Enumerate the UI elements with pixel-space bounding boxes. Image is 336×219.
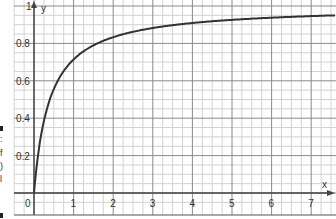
- major-grid: [14, 0, 336, 215]
- svg-text:0.4: 0.4: [16, 113, 30, 124]
- y-axis-label: y: [41, 3, 46, 14]
- edge-mark: [0, 126, 3, 131]
- x-axis-label: x: [322, 179, 327, 190]
- tick-labels: 012345670.20.40.60.81: [16, 1, 314, 209]
- svg-text:4: 4: [189, 198, 195, 209]
- svg-text:1: 1: [71, 198, 77, 209]
- svg-text:5: 5: [229, 198, 235, 209]
- edge-fragment: f: [0, 148, 3, 158]
- svg-text:0.6: 0.6: [16, 76, 30, 87]
- edge-fragment: :: [0, 134, 3, 144]
- svg-text:0.8: 0.8: [16, 38, 30, 49]
- svg-text:0.2: 0.2: [16, 151, 30, 162]
- axes: [14, 1, 335, 215]
- line-chart: 012345670.20.40.60.81 x y: [0, 0, 336, 219]
- edge-fragment: l: [0, 174, 2, 184]
- data-curve: [34, 15, 335, 193]
- svg-text:1: 1: [26, 1, 32, 12]
- minor-grid: [14, 0, 336, 215]
- svg-text:7: 7: [308, 198, 314, 209]
- svg-text:3: 3: [150, 198, 156, 209]
- edge-fragment: ): [0, 161, 3, 171]
- svg-text:2: 2: [110, 198, 116, 209]
- svg-text:0: 0: [25, 198, 31, 209]
- svg-text:6: 6: [269, 198, 275, 209]
- edge-mark: [0, 213, 3, 218]
